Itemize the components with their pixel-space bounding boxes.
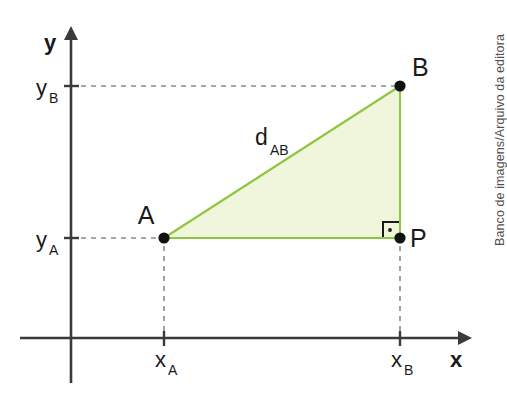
segment-label-dAB-main: d [255, 124, 268, 150]
tick-label-ya: y A [36, 227, 59, 258]
x-axis-arrow-icon [458, 331, 472, 345]
point-P-dot [394, 232, 405, 243]
point-label-P: P [410, 224, 427, 252]
point-B-dot [394, 80, 405, 91]
tick-label-ya-sub: A [49, 242, 59, 258]
tick-label-xb-main: x [391, 347, 402, 372]
point-A-dot [158, 232, 169, 243]
tick-label-xa-main: x [155, 347, 166, 372]
point-label-A: A [138, 201, 155, 229]
image-credit: Banco de imagens/Arquivo da editora [493, 34, 507, 246]
tick-label-xa: x A [155, 347, 178, 378]
tick-label-yb-main: y [36, 75, 47, 100]
tick-label-yb-sub: B [49, 90, 58, 106]
segment-label-dAB-sub: AB [270, 142, 289, 158]
tick-label-yb: y B [36, 75, 58, 106]
x-axis-label: x [450, 347, 463, 372]
tick-label-xa-sub: A [168, 362, 178, 378]
y-axis-arrow-icon [64, 26, 78, 40]
tick-label-ya-main: y [36, 227, 47, 252]
point-label-B: B [412, 53, 429, 81]
segment-label-dAB: d AB [255, 124, 289, 158]
tick-label-xb: x B [391, 347, 413, 378]
y-axis-label: y [44, 30, 57, 55]
tick-label-xb-sub: B [404, 362, 413, 378]
